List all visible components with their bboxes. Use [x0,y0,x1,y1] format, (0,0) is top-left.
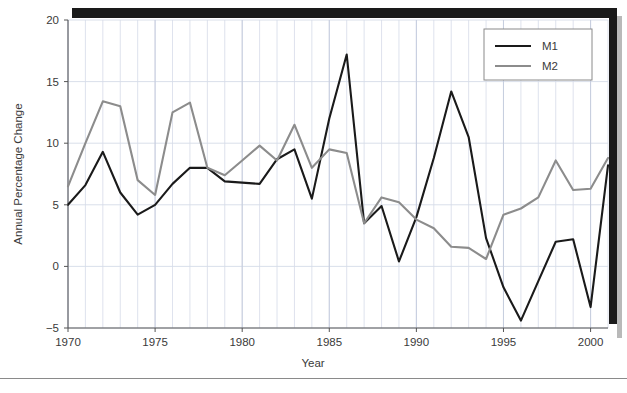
legend-box[interactable] [484,29,592,80]
x-tick-label: 1985 [316,336,342,348]
x-tick-label: 1980 [229,336,255,348]
y-tick-label: 0 [53,260,59,272]
x-tick-label: 1995 [491,336,517,348]
x-tick-label: 2000 [578,336,604,348]
chart-legend[interactable]: M1M2 [484,29,592,80]
y-tick-label: 20 [46,14,59,26]
x-tick-label: 1970 [55,336,81,348]
y-tick-label: 15 [46,76,59,88]
y-tick-label: 5 [53,199,59,211]
x-tick-label: 1990 [404,336,430,348]
chart-figure: 1970197519801985199019952000 −505101520 … [0,0,627,393]
x-tick-label: 1975 [142,336,168,348]
y-tick-label: −5 [46,322,59,334]
x-axis-title: Year [301,357,324,369]
y-tick-label: 10 [46,137,59,149]
legend-label-m1: M1 [542,40,558,52]
footer-divider [0,378,627,379]
legend-label-m2: M2 [542,60,558,72]
money-growth-line-chart: 1970197519801985199019952000 −505101520 … [0,0,627,393]
y-axis-title: Annual Percentage Change [12,103,24,244]
